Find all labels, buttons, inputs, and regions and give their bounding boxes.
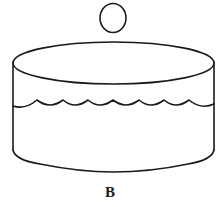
container-bottom-arc <box>13 150 214 172</box>
container-top-rim <box>13 42 214 84</box>
figure-label: B <box>0 184 220 201</box>
diagram-figure <box>0 0 220 207</box>
ball-circle <box>100 4 126 33</box>
water-surface-waves <box>13 100 214 107</box>
